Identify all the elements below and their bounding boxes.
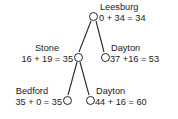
node-label-leesburg: Leesburg 0 + 34 = 34 [99,2,146,23]
node-calc-dayton-mid: 37 +16 = 53 [110,54,159,65]
node-name-dayton-low: Dayton [95,86,147,97]
edge-leesburg-dayton-mid [96,21,104,52]
node-name-dayton-mid: Dayton [110,43,159,54]
node-calc-bedford: 35 + 0 = 35 [0,97,62,108]
tree-diagram: Leesburg 0 + 34 = 34 Stone 16 + 19 = 35 … [0,0,178,119]
node-stone [74,53,83,62]
node-calc-leesburg: 0 + 34 = 34 [99,13,146,24]
node-label-dayton-low: Dayton 44 + 16 = 60 [95,86,147,107]
edge-stone-bedford [68,62,77,95]
node-bedford [63,96,72,105]
edge-leesburg-stone [79,21,91,52]
node-label-bedford: Bedford 35 + 0 = 35 [0,86,62,107]
node-name-bedford: Bedford [0,86,62,97]
node-dayton-mid [101,53,110,62]
node-name-stone: Stone [0,43,73,54]
node-name-leesburg: Leesburg [99,2,146,13]
node-label-stone: Stone 16 + 19 = 35 [0,43,73,64]
node-leesburg [89,12,98,21]
node-calc-dayton-low: 44 + 16 = 60 [95,97,147,108]
edge-stone-dayton-low [80,62,89,95]
node-dayton-low [86,96,95,105]
node-calc-stone: 16 + 19 = 35 [0,54,73,65]
node-label-dayton-mid: Dayton 37 +16 = 53 [110,43,159,64]
